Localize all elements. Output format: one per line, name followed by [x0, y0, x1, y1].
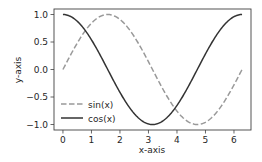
- x-tick-label: 5: [203, 135, 209, 145]
- legend-sin-label: sin(x): [88, 100, 113, 110]
- legend-cos-label: cos(x): [88, 114, 116, 124]
- x-tick-label: 6: [231, 135, 237, 145]
- y-tick-label: −1.0: [26, 120, 48, 130]
- x-axis-label: x-axis: [139, 145, 166, 155]
- legend: sin(x) cos(x): [61, 100, 116, 124]
- y-tick-label: −0.5: [26, 92, 48, 102]
- x-tick-label: 4: [174, 135, 180, 145]
- x-axis-ticks: 0123456: [60, 130, 237, 145]
- x-tick-label: 2: [117, 135, 123, 145]
- y-tick-label: 1.0: [34, 10, 49, 20]
- y-axis-ticks: 1.00.50.0−0.5−1.0: [26, 10, 54, 130]
- y-axis-label: y-axis: [13, 56, 23, 83]
- y-tick-label: 0.5: [34, 37, 48, 47]
- line-chart: 0123456 1.00.50.0−0.5−1.0 x-axis y-axis …: [0, 0, 262, 162]
- x-tick-label: 3: [146, 135, 152, 145]
- x-tick-label: 0: [60, 135, 66, 145]
- y-tick-label: 0.0: [34, 65, 49, 75]
- x-tick-label: 1: [89, 135, 95, 145]
